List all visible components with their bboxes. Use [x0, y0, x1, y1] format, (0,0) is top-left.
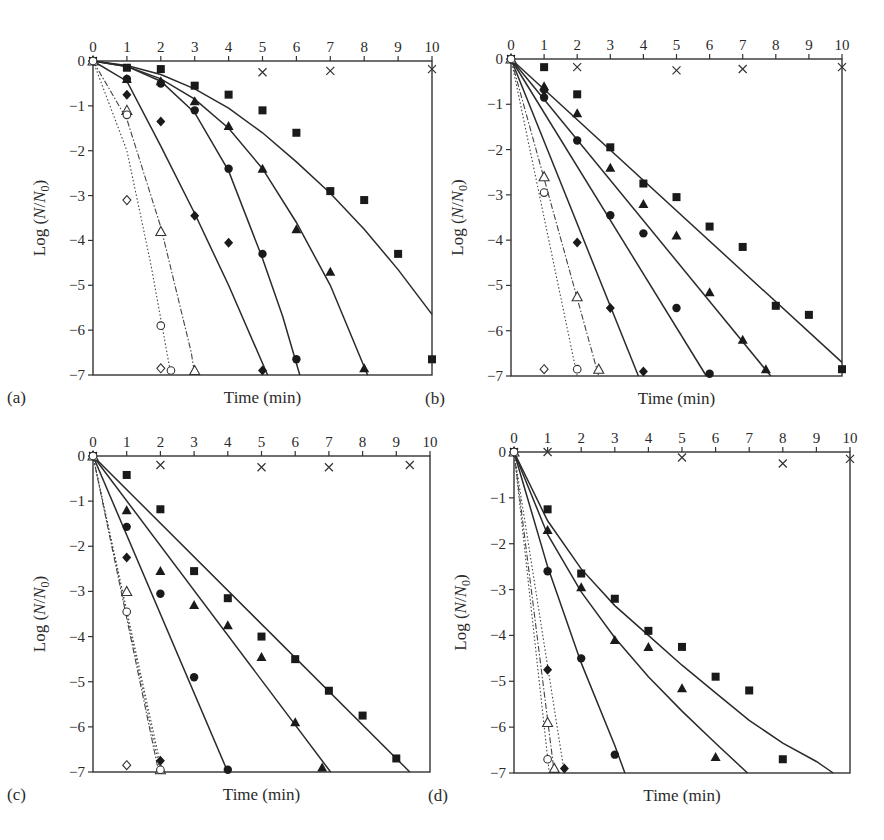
y-tick-label: −1: [490, 490, 506, 506]
panel-a: 0123456789100−1−2−3−4−5−6−7Log (N/N0)Tim…: [7, 39, 440, 407]
marker-open-triangle: [122, 586, 132, 595]
marker-filled-diamond: [639, 366, 648, 376]
marker-filled-square: [360, 196, 368, 204]
marker-filled-square: [157, 65, 165, 73]
x-tick-label: 0: [507, 37, 515, 53]
marker-open-diamond: [123, 196, 131, 205]
x-tick-label: 4: [645, 430, 653, 446]
marker-filled-square: [325, 687, 333, 695]
x-tick-label: 1: [544, 430, 552, 446]
x-tick-label: 8: [772, 37, 780, 53]
marker-open-diamond: [540, 365, 548, 374]
marker-filled-diamond: [560, 763, 569, 773]
marker-cross: [259, 68, 267, 76]
marker-open-diamond: [157, 364, 165, 373]
marker-open-circle: [157, 322, 165, 330]
y-tick-label: −3: [69, 583, 85, 599]
marker-filled-square: [123, 64, 131, 72]
marker-filled-square: [573, 90, 581, 98]
marker-open-circle: [167, 367, 175, 375]
y-tick-label: −4: [487, 232, 503, 248]
panel-label: (b): [425, 389, 445, 408]
marker-filled-circle: [606, 211, 614, 219]
marker-filled-square: [838, 365, 846, 373]
x-tick-label: 6: [293, 39, 301, 55]
x-tick-label: 9: [805, 37, 813, 53]
marker-open-diamond: [123, 761, 131, 770]
y-tick-label: −6: [69, 322, 85, 338]
marker-open-circle: [89, 57, 97, 65]
marker-filled-circle: [224, 766, 232, 774]
y-tick-label: −3: [490, 582, 506, 598]
x-tick-label: 10: [843, 430, 858, 446]
y-tick-label: −1: [487, 96, 503, 112]
marker-filled-triangle: [711, 752, 721, 761]
y-tick-label: 0: [78, 448, 86, 464]
x-tick-label: 8: [779, 430, 787, 446]
marker-cross: [779, 459, 787, 467]
marker-open-triangle: [594, 364, 604, 373]
marker-filled-square: [291, 655, 299, 663]
marker-filled-square: [359, 712, 367, 720]
marker-filled-square: [745, 686, 753, 694]
y-tick-label: −5: [490, 673, 506, 689]
marker-open-circle: [573, 365, 581, 373]
fit-line-open-triangle: [93, 61, 195, 375]
marker-open-circle: [544, 755, 552, 763]
x-axis-title: Time (min): [224, 388, 301, 407]
x-tick-label: 7: [739, 37, 747, 53]
marker-cross: [678, 454, 686, 462]
x-tick-label: 5: [673, 37, 681, 53]
fit-line-filled-square: [511, 59, 842, 362]
panel-label: (c): [7, 785, 26, 804]
y-axis-title: Log (N/N0): [451, 574, 473, 650]
marker-filled-triangle: [605, 163, 615, 172]
y-axis-title: Log (N/N0): [448, 179, 470, 255]
x-tick-label: 9: [393, 434, 401, 450]
marker-filled-triangle: [317, 762, 327, 771]
y-axis-title: Log (N/N0): [30, 576, 52, 652]
fit-line-filled-circle: [514, 452, 625, 773]
marker-filled-diamond: [258, 366, 267, 376]
x-tick-label: 7: [327, 39, 335, 55]
marker-filled-square: [392, 754, 400, 762]
marker-filled-diamond: [122, 90, 131, 100]
x-axis-title: Time (min): [638, 389, 715, 408]
fit-line-filled-diamond: [514, 452, 564, 773]
marker-cross: [258, 463, 266, 471]
x-tick-label: 3: [191, 39, 199, 55]
panel-c: 0123456789100−1−2−3−4−5−6−7Log (N/N0)Tim…: [7, 434, 438, 804]
x-tick-label: 7: [325, 434, 333, 450]
marker-filled-triangle: [677, 683, 687, 692]
y-tick-label: −6: [487, 323, 503, 339]
marker-open-circle: [89, 452, 97, 460]
x-tick-label: 10: [423, 434, 438, 450]
panel-label: (d): [428, 786, 448, 805]
fit-line-filled-diamond: [511, 59, 638, 376]
marker-filled-square: [258, 633, 266, 641]
marker-open-circle: [123, 111, 131, 119]
marker-filled-triangle: [290, 717, 300, 726]
marker-filled-circle: [543, 567, 551, 575]
marker-filled-square: [739, 243, 747, 251]
x-tick-label: 0: [89, 434, 97, 450]
x-axis-title: Time (min): [223, 785, 300, 804]
x-tick-label: 6: [706, 37, 714, 53]
marker-cross: [326, 67, 334, 75]
marker-filled-triangle: [572, 108, 582, 117]
x-tick-label: 2: [577, 430, 585, 446]
marker-open-circle: [507, 55, 515, 63]
marker-filled-diamond: [224, 238, 233, 248]
figure-canvas: 0123456789100−1−2−3−4−5−6−7Log (N/N0)Tim…: [0, 0, 884, 840]
y-tick-label: −7: [69, 367, 85, 383]
plot-frame: [93, 456, 430, 772]
x-tick-label: 8: [359, 434, 367, 450]
marker-filled-triangle: [223, 620, 233, 629]
y-tick-label: −4: [490, 627, 506, 643]
marker-filled-square: [577, 570, 585, 578]
marker-filled-square: [428, 355, 436, 363]
x-tick-label: 5: [258, 434, 266, 450]
marker-filled-circle: [611, 750, 619, 758]
x-tick-label: 0: [89, 39, 97, 55]
marker-cross: [325, 463, 333, 471]
